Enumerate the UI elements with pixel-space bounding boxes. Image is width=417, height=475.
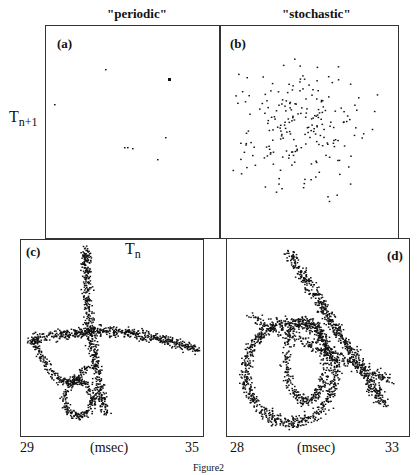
scatter-points: [0, 0, 417, 475]
figure: "periodic" "stochastic" (a) (b) Tn+1 Tn …: [0, 0, 417, 475]
